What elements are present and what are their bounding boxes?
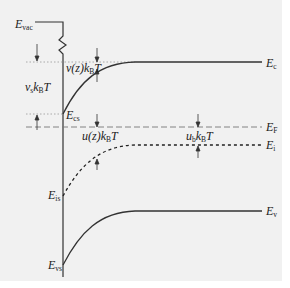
label-evs: Evs bbox=[47, 258, 62, 273]
label-vs-kbt: vskBT bbox=[25, 80, 52, 95]
label-ev: Ev bbox=[265, 204, 277, 219]
intrinsic-level-curve bbox=[63, 145, 262, 196]
label-ef: EF bbox=[265, 120, 278, 135]
label-eis: Eis bbox=[47, 188, 60, 203]
label-uz-kbt: u(z)kBT bbox=[82, 129, 119, 144]
label-evac: Evac bbox=[14, 17, 33, 32]
label-ei: Ei bbox=[265, 138, 275, 153]
band-diagram: Evac Ec Ecs EF Ei Eis Ev Evs vskBT v(z)k… bbox=[0, 0, 290, 288]
label-ecs: Ecs bbox=[65, 108, 80, 123]
label-vz-kbt: v(z)kBT bbox=[66, 61, 102, 76]
vacuum-level-line bbox=[35, 22, 66, 277]
valence-band-curve bbox=[63, 211, 262, 265]
label-ec: Ec bbox=[265, 56, 277, 71]
label-ub-kbt: ubkBT bbox=[186, 129, 214, 144]
